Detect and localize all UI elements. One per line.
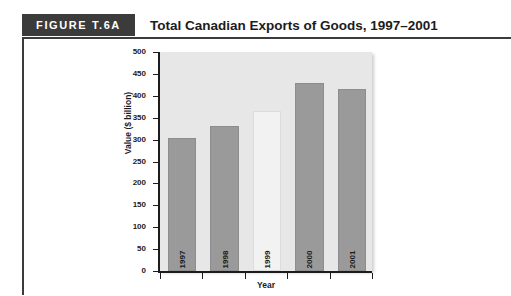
y-tick-mark — [153, 140, 159, 141]
page-top-cutoff-row — [0, 0, 511, 10]
bar-chart: 19971998199920002001 5004504003503002502… — [104, 46, 404, 286]
y-tick-mark — [153, 205, 159, 206]
y-tick-mark — [153, 227, 159, 228]
x-axis-title: Year — [160, 280, 372, 290]
y-tick-mark — [153, 74, 159, 75]
bar-category-label: 2000 — [305, 251, 314, 269]
bar-1998: 1998 — [210, 126, 238, 271]
bar-category-label: 1997 — [178, 251, 187, 269]
x-tick-mark — [372, 273, 373, 279]
figure-left-border — [22, 37, 24, 295]
y-tick-mark — [153, 162, 159, 163]
y-tick-mark — [153, 52, 159, 53]
bar-category-label: 1998 — [220, 251, 229, 269]
y-tick-mark — [153, 118, 159, 119]
y-axis-title: Value ($ billion) — [123, 63, 133, 183]
y-tick-mark — [153, 96, 159, 97]
bar-category-label: 2001 — [347, 251, 356, 269]
y-tick-mark — [153, 249, 159, 250]
y-tick-label: 100 — [104, 223, 146, 231]
bar-1999: 1999 — [253, 111, 281, 271]
figure-number-badge: FIGURE T.6A — [22, 14, 135, 36]
x-tick-mark — [160, 273, 161, 279]
y-tick-label: 150 — [104, 201, 146, 209]
bar-category-label: 1999 — [262, 251, 271, 269]
x-axis-line — [158, 271, 372, 273]
bars-layer: 19971998199920002001 — [160, 52, 372, 271]
y-tick-label: 500 — [104, 48, 146, 56]
x-tick-mark — [287, 273, 288, 279]
bar-1997: 1997 — [168, 138, 196, 271]
y-tick-label: 0 — [104, 267, 146, 275]
x-tick-mark — [202, 273, 203, 279]
figure-container: FIGURE T.6A Total Canadian Exports of Go… — [0, 13, 511, 283]
x-tick-mark — [245, 273, 246, 279]
figure-title: Total Canadian Exports of Goods, 1997–20… — [150, 14, 438, 36]
figure-header-rule — [22, 37, 511, 39]
bar-2001: 2001 — [338, 89, 366, 271]
plot-area: 19971998199920002001 — [160, 52, 372, 271]
y-tick-label: 50 — [104, 245, 146, 253]
bar-2000: 2000 — [295, 83, 323, 271]
x-tick-mark — [330, 273, 331, 279]
y-tick-mark — [153, 183, 159, 184]
